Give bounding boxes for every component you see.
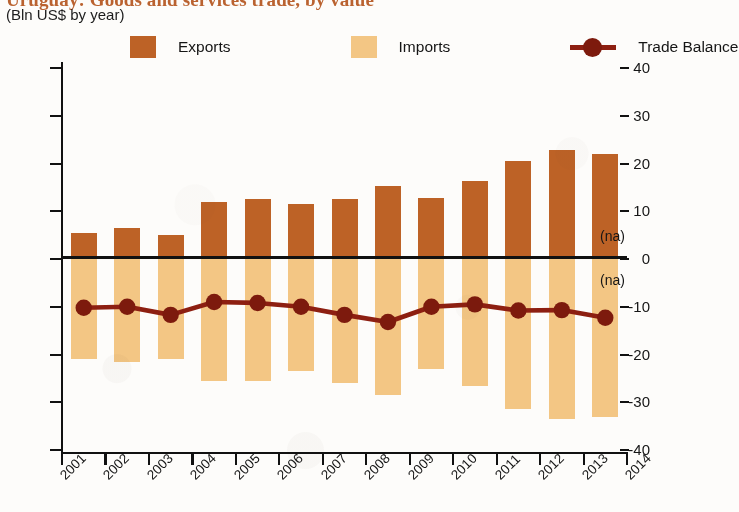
x-tick bbox=[496, 452, 498, 465]
x-tick bbox=[191, 452, 193, 465]
y-tick-label: -30 bbox=[606, 394, 650, 409]
bar-imports-2002 bbox=[114, 259, 140, 362]
bar-exports-2011 bbox=[505, 161, 531, 259]
y-tick-label: -10 bbox=[606, 299, 650, 314]
x-tick bbox=[104, 452, 106, 465]
bar-exports-2008 bbox=[375, 186, 401, 259]
x-tick bbox=[278, 452, 280, 465]
bar-imports-2006 bbox=[288, 259, 314, 371]
bar-imports-2005 bbox=[245, 259, 271, 381]
bar-exports-2004 bbox=[201, 202, 227, 259]
bar-imports-2011 bbox=[505, 259, 531, 409]
x-tick bbox=[235, 452, 237, 465]
bar-exports-2010 bbox=[462, 181, 488, 259]
legend-label: Trade Balance bbox=[638, 38, 738, 56]
x-tick bbox=[322, 452, 324, 465]
x-tick bbox=[409, 452, 411, 465]
zero-line bbox=[61, 256, 627, 259]
bar-imports-2008 bbox=[375, 259, 401, 395]
y-tick bbox=[50, 354, 62, 356]
bar-exports-2009 bbox=[418, 198, 444, 259]
x-tick bbox=[452, 452, 454, 465]
bar-imports-2007 bbox=[332, 259, 358, 383]
bar-exports-2012 bbox=[549, 150, 575, 259]
bar-imports-2012 bbox=[549, 259, 575, 419]
bar-exports-2005 bbox=[245, 199, 271, 259]
x-tick bbox=[61, 452, 63, 465]
y-tick-label: -20 bbox=[606, 347, 650, 362]
y-tick-label: 30 bbox=[606, 108, 650, 123]
y-tick bbox=[50, 115, 62, 117]
x-tick bbox=[365, 452, 367, 465]
bar-exports-2002 bbox=[114, 228, 140, 259]
y-tick-label: 10 bbox=[606, 203, 650, 218]
bar-imports-2003 bbox=[158, 259, 184, 359]
bar-imports-2004 bbox=[201, 259, 227, 381]
y-tick bbox=[50, 210, 62, 212]
y-tick bbox=[50, 163, 62, 165]
x-tick bbox=[583, 452, 585, 465]
na-label-below: (na) bbox=[600, 272, 625, 288]
bar-exports-2006 bbox=[288, 204, 314, 259]
y-tick-label: 20 bbox=[606, 156, 650, 171]
x-axis bbox=[61, 452, 627, 454]
x-tick bbox=[148, 452, 150, 465]
bar-imports-2010 bbox=[462, 259, 488, 386]
y-tick bbox=[50, 401, 62, 403]
x-tick bbox=[626, 452, 628, 465]
y-tick bbox=[50, 449, 62, 451]
bar-imports-2001 bbox=[71, 259, 97, 359]
x-tick bbox=[539, 452, 541, 465]
y-tick-label: 40 bbox=[606, 60, 650, 75]
na-label-above: (na) bbox=[600, 228, 625, 244]
y-tick bbox=[50, 67, 62, 69]
bar-exports-2007 bbox=[332, 199, 358, 259]
y-tick bbox=[50, 306, 62, 308]
y-tick bbox=[50, 258, 62, 260]
y-tick-label: 0 bbox=[606, 251, 650, 266]
bar-imports-2009 bbox=[418, 259, 444, 369]
